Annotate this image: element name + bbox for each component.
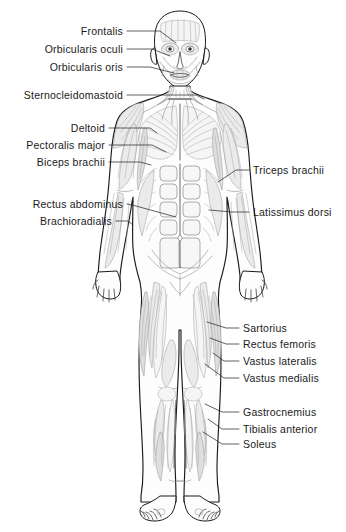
muscle-label-latissimus-dorsi: Latissimus dorsi [253,207,332,218]
hand-left [96,271,121,299]
pectoralis-major-muscles [139,99,221,160]
muscle-label-sternocleidomastoid: Sternocleidomastoid [24,90,123,101]
muscle-label-frontalis: Frontalis [81,26,123,37]
muscle-label-pectoralis-major: Pectoralis major [26,140,105,151]
muscle-label-triceps-brachii: Triceps brachii [253,165,324,176]
muscle-label-sartorius: Sartorius [243,323,287,334]
muscle-label-orbicularis-oculi: Orbicularis oculi [45,44,123,55]
muscle-label-tibialis-anterior: Tibialis anterior [243,424,317,435]
anatomy-diagram-page: .sk { fill:#fdfdfd; stroke:#1a1a1a; stro… [0,0,346,532]
muscle-label-biceps-brachii: Biceps brachii [37,157,105,168]
ab-segment [160,184,177,199]
ab-segment [160,220,177,235]
hand-right [239,271,264,299]
ab-segment [183,184,200,199]
ab-segment [160,166,177,181]
muscle-label-deltoid: Deltoid [71,123,105,134]
head [151,11,210,89]
ab-segment [183,220,200,235]
muscle-label-vastus-lateralis: Vastus lateralis [243,356,317,367]
ab-segment [183,202,200,217]
muscle-label-rectus-abdominus: Rectus abdominus [33,199,123,210]
muscle-label-vastus-medialis: Vastus medialis [243,373,319,384]
muscular-system-figure: .sk { fill:#fdfdfd; stroke:#1a1a1a; stro… [0,0,346,532]
muscle-label-soleus: Soleus [243,439,276,450]
muscle-label-rectus-femoris: Rectus femoris [243,339,316,350]
lower-leg-muscles [153,400,206,482]
muscle-label-orbicularis-oris: Orbicularis oris [50,62,123,73]
frontalis-muscle [161,20,200,42]
ab-segment [183,166,200,181]
muscle-label-gastrocnemius: Gastrocnemius [243,407,316,418]
muscle-label-brachioradialis: Brachioradialis [40,216,112,227]
